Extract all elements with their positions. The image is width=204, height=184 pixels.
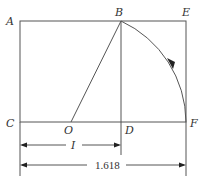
- label-b: B: [114, 6, 123, 19]
- golden-rectangle-diagram: A B E C O D F I 1.618: [0, 0, 204, 184]
- label-a: A: [5, 15, 14, 28]
- label-total: 1.618: [95, 159, 120, 171]
- arrow-right-icon: [114, 143, 121, 148]
- label-d: D: [124, 124, 134, 137]
- arrow-left-icon: [20, 163, 27, 168]
- label-unit: I: [70, 139, 76, 152]
- arc-bf: [121, 21, 186, 122]
- label-e: E: [181, 6, 190, 19]
- arrow-right-icon: [179, 163, 186, 168]
- arrow-left-icon: [20, 143, 27, 148]
- label-f: F: [189, 117, 198, 130]
- label-c: C: [6, 117, 15, 130]
- label-o: O: [64, 124, 73, 137]
- line-ob: [71, 21, 121, 122]
- outer-rectangle: [20, 21, 186, 122]
